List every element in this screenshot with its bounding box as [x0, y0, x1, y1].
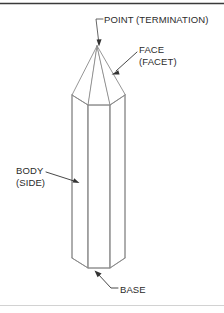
face-arrowhead: [112, 70, 120, 74]
body-leader-line: [46, 172, 74, 181]
crystal-face-front: [88, 105, 110, 268]
label-side: (SIDE): [16, 177, 45, 189]
crystal-face-right: [110, 95, 125, 268]
diagram-canvas: POINT (TERMINATION) FACE (FACET) BODY (S…: [0, 0, 224, 313]
base-leader-line: [98, 274, 118, 288]
label-point-termination: POINT (TERMINATION): [104, 14, 208, 26]
label-body: BODY: [16, 165, 43, 177]
face-leader-line: [116, 52, 137, 71]
label-face: FACE: [139, 44, 164, 56]
label-facet: (FACET): [139, 56, 177, 68]
point-arrowhead: [97, 39, 102, 46]
label-base: BASE: [120, 284, 146, 296]
crystal-diagram: [0, 0, 224, 313]
crystal-figure: [72, 46, 125, 268]
